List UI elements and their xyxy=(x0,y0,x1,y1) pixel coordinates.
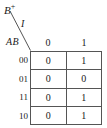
row-variable-label: AB xyxy=(6,37,19,47)
karnaugh-map: B+ I AB 0 1 00 01 11 10 0 1 0 0 0 1 0 1 xyxy=(0,0,107,128)
table-row: 0 1 xyxy=(31,52,101,70)
cell-10-0: 0 xyxy=(31,107,67,124)
table-row: 0 0 xyxy=(31,70,101,88)
row-header-11: 11 xyxy=(8,88,29,107)
cell-11-0: 0 xyxy=(31,89,67,106)
table-row: 0 1 xyxy=(31,107,101,124)
output-variable: B xyxy=(4,4,11,16)
cell-10-1: 1 xyxy=(67,107,102,124)
cell-11-1: 1 xyxy=(67,89,102,106)
output-superscript: + xyxy=(11,2,16,11)
column-header-0: 0 xyxy=(30,36,66,50)
column-variable-label: I xyxy=(21,19,24,29)
column-header-1: 1 xyxy=(66,36,102,50)
output-function-label: B+ xyxy=(4,1,15,16)
value-grid: 0 1 0 0 0 1 0 1 xyxy=(30,51,102,125)
row-header-01: 01 xyxy=(8,70,29,89)
column-header-row: 0 1 xyxy=(30,36,102,50)
cell-00-0: 0 xyxy=(31,52,67,69)
row-header-column: 00 01 11 10 xyxy=(8,51,29,125)
cell-01-0: 0 xyxy=(31,70,67,87)
table-row: 0 1 xyxy=(31,89,101,107)
row-header-10: 10 xyxy=(8,107,29,126)
cell-01-1: 0 xyxy=(67,70,102,87)
row-header-00: 00 xyxy=(8,51,29,70)
cell-00-1: 1 xyxy=(67,52,102,69)
